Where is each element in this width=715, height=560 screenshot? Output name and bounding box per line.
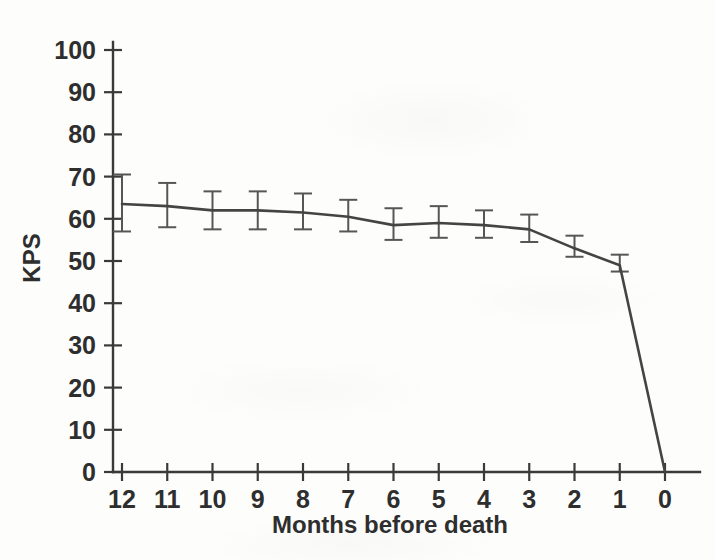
y-tick-label: 10 — [68, 416, 96, 444]
x-tick-label: 5 — [432, 485, 446, 513]
x-tick-label: 9 — [251, 485, 265, 513]
y-tick-label: 40 — [68, 289, 96, 317]
x-tick-label: 6 — [387, 485, 401, 513]
x-tick-label: 12 — [108, 485, 136, 513]
y-tick-label: 0 — [82, 458, 96, 486]
y-tick-label: 80 — [68, 120, 96, 148]
x-axis-title: Months before death — [272, 511, 508, 538]
y-tick-label: 20 — [68, 374, 96, 402]
y-tick-label: 90 — [68, 78, 96, 106]
x-tick-label: 3 — [522, 485, 536, 513]
x-tick-label: 2 — [568, 485, 582, 513]
axes-group — [113, 42, 700, 472]
y-tick-label: 30 — [68, 331, 96, 359]
y-tick-label: 100 — [54, 36, 96, 64]
y-axis-title: KPS — [18, 233, 45, 282]
x-tick-label: 4 — [477, 485, 491, 513]
x-tick-label: 11 — [154, 485, 181, 513]
error-bars-group — [113, 174, 629, 271]
y-tick-label: 60 — [68, 205, 96, 233]
x-tick-label: 8 — [296, 485, 310, 513]
x-tick-label: 10 — [199, 485, 227, 513]
y-tick-label: 70 — [68, 163, 96, 191]
x-tick-label: 7 — [341, 485, 355, 513]
x-tick-label: 1 — [613, 485, 627, 513]
x-axis-ticks: 1211109876543210 — [108, 463, 672, 513]
x-tick-label: 0 — [658, 485, 672, 513]
y-tick-label: 50 — [68, 247, 96, 275]
chart-figure: 1009080706050403020100 1211109876543210 … — [0, 0, 715, 560]
kps-line-chart: 1009080706050403020100 1211109876543210 … — [0, 0, 715, 560]
kps-data-line — [122, 204, 665, 472]
